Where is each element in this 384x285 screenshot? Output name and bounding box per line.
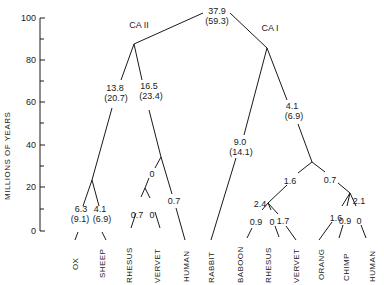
node-ca1-ape-value: 2.1 [353,196,366,206]
phylogenetic-tree [0,0,384,285]
branch-ca1-primate-value: 4.1 [286,101,299,111]
branch-ca1-monkey: 1.6 [284,176,297,186]
branch-ca2-monkey: 0 [149,169,154,179]
branch-sheep-value: 4.1 [94,204,107,214]
cluster-label-ca2: CA II [129,20,149,30]
node-root-value: 37.9 [208,6,226,16]
branch-ca1-vervet: 1.7 [277,216,290,226]
branch-ox-value: 6.3 [75,204,88,214]
y-axis-label: MILLIONS OF YEARS [3,112,12,200]
taxon-human-ca2: HUMAN [182,251,191,282]
branch-ca2-primate-sub: (23.4) [139,91,163,101]
branch-rabbit-sub: (14.1) [229,147,253,157]
branch-ca1-rhesus: 0 [269,217,274,227]
branch-ca1-ape: 0.7 [324,175,337,185]
y-tick-0: 0 [12,226,36,236]
node-root-sub: (59.3) [205,16,229,26]
branch-rabbit-value: 9.0 [234,137,247,147]
taxon-chimp: CHIMP [342,253,351,281]
y-tick-60: 60 [12,97,36,107]
branch-ca1-chimp: 0.9 [339,216,352,226]
taxon-rabbit: RABBIT [207,252,216,283]
branch-ungulate-sub: (20.7) [104,93,128,103]
taxon-baboon: BABOON [236,246,245,283]
taxon-sheep: SHEEP [98,249,107,278]
branch-sheep-sub: (6.9) [93,214,112,224]
cluster-label-ca1: CA I [261,23,278,33]
y-tick-100: 100 [12,13,36,23]
taxon-rhesus-ca1: RHESUS [264,247,273,283]
taxon-ox: OX [71,258,80,270]
taxon-orang: ORANG [317,249,326,280]
branch-ungulate-value: 13.8 [106,83,124,93]
branch-ox-sub: (9.1) [71,214,90,224]
branch-ca1-baboon: 0.9 [250,217,263,227]
taxon-vervet-ca2: VERVET [153,249,162,283]
node-ca1-monkey-value: 2.4 [254,199,267,209]
branch-ca1-primate-sub: (6.9) [285,111,304,121]
y-tick-40: 40 [12,140,36,150]
y-tick-20: 20 [12,182,36,192]
branch-ca2-vervet: 0 [149,210,154,220]
y-tick-80: 80 [12,55,36,65]
branch-ca2-rhesus: 0.7 [131,210,144,220]
branch-ca2-primate-value: 16.5 [140,81,158,91]
branch-ca2-human: 0.7 [168,196,181,206]
taxon-human-ca1: HUMAN [368,251,377,282]
branch-ca1-human: 0 [356,216,361,226]
taxon-vervet-ca1: VERVET [292,249,301,283]
taxon-rhesus-ca2: RHESUS [125,247,134,283]
